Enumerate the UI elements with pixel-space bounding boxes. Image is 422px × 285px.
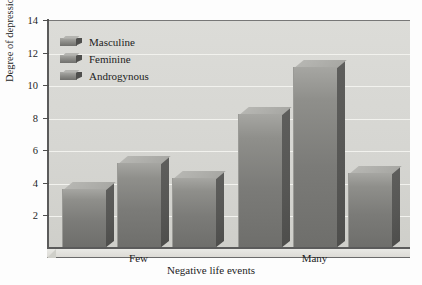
legend-swatch-side <box>76 55 82 63</box>
legend-label: Masculine <box>89 36 135 48</box>
bar-front-face <box>172 178 216 248</box>
legend-label: Androgynous <box>89 70 149 82</box>
bar-side-face <box>281 107 290 248</box>
bar-front-face <box>348 173 392 248</box>
bar-front-face <box>238 114 282 248</box>
legend-swatch-front <box>60 55 77 63</box>
y-axis-tick <box>43 118 49 119</box>
bar-masculine-few <box>62 189 105 248</box>
bar-masculine-many <box>238 114 281 248</box>
gridline <box>48 119 410 120</box>
y-axis-tick <box>43 150 49 151</box>
bar-side-face <box>336 60 345 248</box>
y-axis-tick <box>43 85 49 86</box>
legend-label: Feminine <box>89 53 131 65</box>
legend: MasculineFeminineAndrogynous <box>60 33 149 84</box>
y-axis-title: Degree of depression <box>4 0 15 82</box>
legend-swatch-front <box>60 38 77 46</box>
legend-swatch-icon <box>60 72 82 80</box>
legend-item: Feminine <box>60 50 149 67</box>
x-axis-category-label: Few <box>129 252 148 264</box>
bar-androgynous-few <box>172 178 215 248</box>
y-axis-tick <box>43 183 49 184</box>
legend-swatch-front <box>60 72 77 80</box>
y-axis-tick-label: 4 <box>0 177 38 188</box>
x-axis-title: Negative life events <box>0 264 422 276</box>
y-axis-tick <box>43 20 49 21</box>
legend-item: Masculine <box>60 33 149 50</box>
legend-swatch-side <box>76 38 82 46</box>
bar-chart-figure: 2468101214 FewMany Degree of depression … <box>0 0 422 285</box>
bar-front-face <box>62 189 106 248</box>
legend-swatch-icon <box>60 38 82 46</box>
y-axis-tick <box>43 215 49 216</box>
bar-feminine-few <box>117 163 160 248</box>
bar-side-face <box>391 166 400 248</box>
bar-side-face <box>160 156 169 248</box>
bar-front-face <box>117 163 161 248</box>
chart-floor <box>47 249 410 258</box>
bar-front-face <box>293 67 337 248</box>
y-axis-tick-label: 2 <box>0 210 38 221</box>
y-axis-tick-label: 8 <box>0 112 38 123</box>
gridline <box>48 86 410 87</box>
y-axis-tick <box>43 53 49 54</box>
x-axis-category-label: Many <box>302 252 328 264</box>
legend-swatch-side <box>76 72 82 80</box>
bar-androgynous-many <box>348 173 391 248</box>
gridline <box>48 151 410 152</box>
y-axis-tick-label: 6 <box>0 145 38 156</box>
legend-item: Androgynous <box>60 67 149 84</box>
legend-swatch-icon <box>60 55 82 63</box>
bar-feminine-many <box>293 67 336 248</box>
bar-side-face <box>215 171 224 248</box>
bar-side-face <box>105 182 114 248</box>
